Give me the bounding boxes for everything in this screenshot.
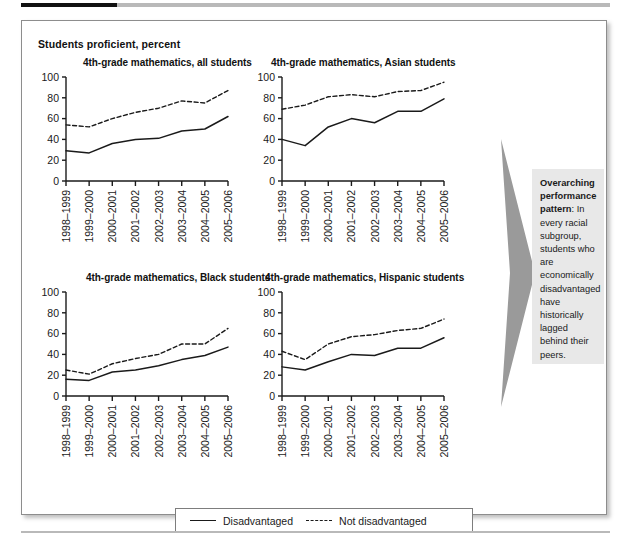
xtick-label: 1998–1999 <box>60 405 72 458</box>
ytick-label: 100 <box>257 71 275 83</box>
ytick-label: 80 <box>263 92 275 104</box>
chart-panel-all-students: 0204060801001998–19991999–20002000–20012… <box>34 69 266 259</box>
ytick-label: 40 <box>47 348 59 360</box>
legend-label-disadvantaged: Disadvantaged <box>223 515 293 527</box>
series-line-disadvantaged <box>66 347 228 380</box>
xtick-label: 1999–2000 <box>83 405 95 458</box>
callout-arrow-icon <box>501 139 535 407</box>
xtick-label: 2005–2006 <box>438 190 450 243</box>
panel-title-all-students: 4th-grade mathematics, all students <box>83 57 252 68</box>
xtick-label: 2001–2002 <box>129 405 141 458</box>
ytick-label: 20 <box>47 154 59 166</box>
xtick-label: 2004–2005 <box>199 190 211 243</box>
ytick-label: 80 <box>263 307 275 319</box>
xtick-label: 2001–2002 <box>345 405 357 458</box>
ytick-label: 0 <box>269 175 275 187</box>
plot-all-students: 0204060801001998–19991999–20002000–20012… <box>34 69 266 259</box>
series-line-disadvantaged <box>282 99 444 146</box>
xtick-label: 2003–2004 <box>392 405 404 458</box>
xtick-label: 2005–2006 <box>222 405 234 458</box>
ytick-label: 40 <box>47 133 59 145</box>
legend-dashed-line-icon <box>306 520 332 521</box>
series-line-disadvantaged <box>66 117 228 153</box>
panel-title-asian-students: 4th-grade mathematics, Asian students <box>271 57 456 68</box>
xtick-label: 2003–2004 <box>176 190 188 243</box>
chart-panel-black-students: 0204060801001998–19991999–20002000–20012… <box>34 284 266 474</box>
xtick-label: 2004–2005 <box>415 405 427 458</box>
series-line-not-disadvantaged <box>282 82 444 109</box>
ytick-label: 80 <box>47 307 59 319</box>
xtick-label: 2003–2004 <box>392 190 404 243</box>
xtick-label: 2000–2001 <box>106 190 118 243</box>
xtick-label: 2005–2006 <box>222 190 234 243</box>
xtick-label: 2000–2001 <box>322 405 334 458</box>
callout-box: Overarching performance pattern: In ever… <box>532 169 604 364</box>
xtick-label: 2000–2001 <box>322 190 334 243</box>
callout-body: : In every racial subgroup, students who… <box>540 204 600 359</box>
xtick-label: 1998–1999 <box>276 405 288 458</box>
chart-panel-asian-students: 0204060801001998–19991999–20002000–20012… <box>250 69 482 259</box>
xtick-label: 2004–2005 <box>199 405 211 458</box>
figure-card: Students proficient, percent 4th-grade m… <box>21 20 607 515</box>
plot-asian-students: 0204060801001998–19991999–20002000–20012… <box>250 69 482 259</box>
xtick-label: 2002–2003 <box>369 190 381 243</box>
xtick-label: 2002–2003 <box>153 405 165 458</box>
ytick-label: 100 <box>41 71 59 83</box>
top-rule <box>21 3 610 7</box>
ytick-label: 60 <box>47 327 59 339</box>
figure-page: Students proficient, percent 4th-grade m… <box>0 0 630 549</box>
panel-title-black-students: 4th-grade mathematics, Black students <box>86 272 270 283</box>
plot-black-students: 0204060801001998–19991999–20002000–20012… <box>34 284 266 474</box>
ytick-label: 60 <box>263 327 275 339</box>
series-line-disadvantaged <box>282 338 444 370</box>
xtick-label: 2004–2005 <box>415 190 427 243</box>
ytick-label: 0 <box>269 390 275 402</box>
xtick-label: 1999–2000 <box>299 190 311 243</box>
panel-title-hispanic-students: 4th-grade mathematics, Hispanic students <box>265 272 464 283</box>
plot-hispanic-students: 0204060801001998–19991999–20002000–20012… <box>250 284 482 474</box>
ytick-label: 20 <box>263 154 275 166</box>
ytick-label: 80 <box>47 92 59 104</box>
legend-item-disadvantaged[interactable]: Disadvantaged <box>190 515 293 527</box>
ytick-label: 0 <box>53 175 59 187</box>
figure-value-axis-label: Students proficient, percent <box>38 38 180 50</box>
legend-label-not-disadvantaged: Not disadvantaged <box>339 515 427 527</box>
xtick-label: 2002–2003 <box>369 405 381 458</box>
ytick-label: 0 <box>53 390 59 402</box>
chart-panel-hispanic-students: 0204060801001998–19991999–20002000–20012… <box>250 284 482 474</box>
chart-legend: Disadvantaged Not disadvantaged <box>175 508 473 533</box>
bottom-rule <box>21 531 610 533</box>
ytick-label: 40 <box>263 133 275 145</box>
series-line-not-disadvantaged <box>66 91 228 127</box>
ytick-label: 20 <box>263 369 275 381</box>
xtick-label: 1999–2000 <box>299 405 311 458</box>
ytick-label: 20 <box>47 369 59 381</box>
legend-solid-line-icon <box>190 520 216 521</box>
callout-lead: Overarching performance pattern <box>540 178 596 214</box>
ytick-label: 40 <box>263 348 275 360</box>
ytick-label: 60 <box>263 112 275 124</box>
series-line-not-disadvantaged <box>282 319 444 360</box>
legend-item-not-disadvantaged[interactable]: Not disadvantaged <box>306 515 427 527</box>
xtick-label: 2001–2002 <box>345 190 357 243</box>
top-rule-dark-segment <box>21 3 117 7</box>
xtick-label: 1999–2000 <box>83 190 95 243</box>
xtick-label: 1998–1999 <box>276 190 288 243</box>
xtick-label: 2001–2002 <box>129 190 141 243</box>
xtick-label: 1998–1999 <box>60 190 72 243</box>
ytick-label: 60 <box>47 112 59 124</box>
xtick-label: 2003–2004 <box>176 405 188 458</box>
xtick-label: 2000–2001 <box>106 405 118 458</box>
xtick-label: 2002–2003 <box>153 190 165 243</box>
ytick-label: 100 <box>41 286 59 298</box>
ytick-label: 100 <box>257 286 275 298</box>
xtick-label: 2005–2006 <box>438 405 450 458</box>
